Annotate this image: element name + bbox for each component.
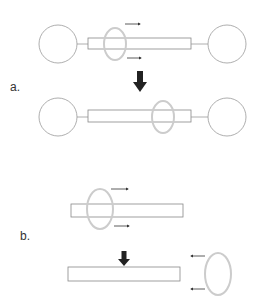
right-stopper <box>208 25 246 63</box>
panel-b-initial <box>71 189 183 229</box>
rotaxane-diagram <box>0 0 254 306</box>
ring <box>205 253 231 295</box>
left-stopper <box>39 25 77 63</box>
left-stopper <box>39 98 77 136</box>
axle <box>68 267 180 281</box>
ring <box>152 101 174 133</box>
down-arrow-icon <box>118 251 130 266</box>
axle <box>88 110 191 122</box>
down-arrow-icon <box>133 71 147 92</box>
ring <box>87 189 113 229</box>
right-stopper <box>208 98 246 136</box>
panel-a-initial <box>39 24 246 63</box>
panel-b-final <box>68 253 231 295</box>
panel-a-final <box>39 98 246 136</box>
ring <box>104 28 126 60</box>
